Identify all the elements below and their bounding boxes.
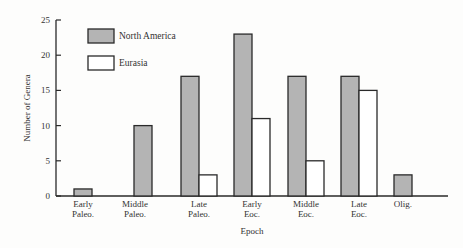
bar-north-america xyxy=(181,76,199,196)
bar-eurasia xyxy=(306,161,324,196)
x-category-label: Eoc. xyxy=(298,209,314,219)
bar-chart: 0510152025 EarlyPaleo.MiddlePaleo.LatePa… xyxy=(0,0,463,248)
legend-label: North America xyxy=(119,31,177,41)
y-tick-label: 15 xyxy=(41,85,51,95)
y-tick-label: 20 xyxy=(41,50,51,60)
x-category-label: Paleo. xyxy=(188,209,210,219)
x-category-label: Middle xyxy=(122,199,148,209)
bar-north-america xyxy=(74,189,92,196)
y-tick-label: 0 xyxy=(46,191,51,201)
x-category-label: Early xyxy=(242,199,262,209)
x-category-label: Early xyxy=(73,199,93,209)
bar-eurasia xyxy=(252,119,270,196)
legend: North AmericaEurasia xyxy=(88,29,177,70)
y-tick-label: 5 xyxy=(46,156,51,166)
x-category-label: Late xyxy=(351,199,367,209)
x-axis-title: Epoch xyxy=(241,226,264,236)
bar-north-america xyxy=(234,34,252,196)
y-tick-label: 10 xyxy=(41,121,51,131)
x-axis-labels: EarlyPaleo.MiddlePaleo.LatePaleo.EarlyEo… xyxy=(72,199,412,219)
x-category-label: Eoc. xyxy=(244,209,260,219)
bar-eurasia xyxy=(359,90,377,196)
x-category-label: Paleo. xyxy=(124,209,146,219)
legend-swatch-north-america xyxy=(88,29,114,43)
x-category-label: Middle xyxy=(293,199,319,209)
bar-north-america xyxy=(288,76,306,196)
legend-swatch-eurasia xyxy=(88,56,114,70)
legend-label: Eurasia xyxy=(119,58,148,68)
bar-north-america xyxy=(134,126,152,196)
bar-north-america xyxy=(341,76,359,196)
x-category-label: Late xyxy=(191,199,207,209)
x-category-label: Eoc. xyxy=(351,209,367,219)
x-category-label: Olig. xyxy=(394,199,412,209)
bar-eurasia xyxy=(199,175,217,196)
y-axis-title: Number of Genera xyxy=(22,74,32,141)
y-tick-label: 25 xyxy=(41,15,51,25)
x-category-label: Paleo. xyxy=(72,209,94,219)
bar-north-america xyxy=(394,175,412,196)
